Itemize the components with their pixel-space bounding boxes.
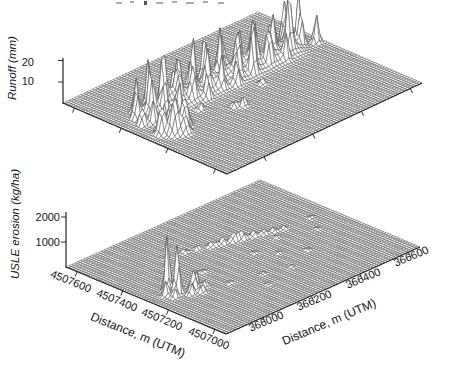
erosion-ztick-label-2000: 2000	[36, 211, 60, 223]
caption-remnant-mark	[156, 2, 163, 4]
caption-remnant-mark	[116, 2, 122, 4]
runoff-z-axis-ticks	[58, 61, 63, 83]
surface-plots-figure: 20 10 Runoff (mm) 2000 1000 USLE erosion…	[0, 0, 449, 372]
runoff-surface-mesh	[63, 0, 422, 174]
erosion-z-axis-title: USLE erosion (kg/ha)	[9, 169, 21, 279]
caption-remnant-mark	[172, 1, 177, 3]
erosion-z-axis-ticks	[61, 217, 66, 242]
caption-remnant-mark	[203, 1, 208, 3]
caption-remnant-mark	[144, 1, 147, 5]
caption-remnant-mark	[130, 1, 134, 3]
erosion-z-axis: 2000 1000 USLE erosion (kg/ha)	[9, 169, 66, 279]
caption-remnant-mark	[218, 2, 224, 4]
caption-remnant-mark	[186, 2, 194, 4]
erosion-ztick-label-1000: 1000	[36, 236, 60, 248]
cropped-caption-remnant	[116, 1, 224, 5]
runoff-ztick-label-20: 20	[22, 56, 34, 68]
runoff-ztick-label-10: 10	[22, 75, 34, 87]
runoff-z-axis-title: Runoff (mm)	[6, 36, 18, 100]
runoff-z-axis: 20 10 Runoff (mm)	[6, 36, 63, 104]
